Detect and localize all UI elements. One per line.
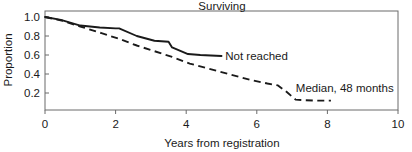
x-tick-label-10: 10 <box>392 118 405 130</box>
x-tick-label-6: 6 <box>254 118 260 130</box>
x-tick-label-2: 2 <box>112 118 118 130</box>
y-axis-ticks <box>45 17 49 93</box>
chart-title: Surviving <box>198 0 245 12</box>
y-tick-label-4: 0.4 <box>24 68 41 80</box>
y-tick-label-3: 0.6 <box>24 49 40 61</box>
x-axis-title: Years from registration <box>164 137 279 149</box>
x-axis-ticks <box>45 110 398 114</box>
plot-frame <box>45 11 398 110</box>
survival-curve-median-48-months <box>45 17 331 101</box>
curve-annotation-not-reached: Not reached <box>225 50 288 62</box>
curve-annotation-median: Median, 48 months <box>296 82 394 94</box>
survival-chart-figure: 1.0 0.8 0.6 0.4 0.2 0 2 4 6 8 10 Survivi… <box>0 0 412 152</box>
x-tick-label-8: 8 <box>324 118 330 130</box>
y-tick-label-2: 0.8 <box>24 30 40 42</box>
y-tick-label-5: 0.2 <box>24 87 40 99</box>
y-tick-label-1: 1.0 <box>24 11 40 23</box>
y-axis-title: Proportion <box>2 33 14 86</box>
x-tick-label-4: 4 <box>183 118 190 130</box>
x-tick-label-0: 0 <box>42 118 48 130</box>
survival-chart-svg: 1.0 0.8 0.6 0.4 0.2 0 2 4 6 8 10 Survivi… <box>0 0 412 152</box>
